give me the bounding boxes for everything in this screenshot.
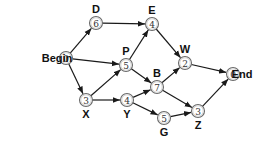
- edge-p-to-e: [130, 30, 149, 60]
- node-value: 2: [182, 59, 188, 69]
- network-diagram: 0Begin6D4E5P2W0End3X4Y7B5G3Z: [0, 0, 269, 145]
- node-value: 3: [83, 96, 89, 106]
- node-label: B: [153, 67, 161, 79]
- node-x: 3X: [80, 94, 93, 121]
- edge-b-to-z: [163, 90, 192, 107]
- edge-g-to-z: [170, 112, 191, 116]
- nodes-layer: 0Begin6D4E5P2W0End3X4Y7B5G3Z: [42, 3, 253, 138]
- node-b: 7B: [151, 67, 164, 94]
- node-g: 5G: [158, 112, 171, 139]
- node-begin: 0Begin: [42, 52, 73, 65]
- node-w: 2W: [179, 43, 192, 70]
- node-label: G: [160, 126, 169, 138]
- node-value: 4: [124, 96, 130, 106]
- edge-w-to-end: [191, 65, 226, 73]
- edge-p-to-b: [131, 69, 151, 83]
- node-value: 6: [93, 19, 99, 29]
- node-label: W: [180, 43, 191, 55]
- node-label: End: [232, 68, 253, 80]
- node-z: 3Z: [192, 105, 205, 132]
- node-d: 6D: [90, 3, 103, 30]
- edge-e-to-w: [156, 29, 180, 58]
- node-e: 4E: [146, 4, 159, 31]
- edge-y-to-b: [133, 90, 151, 98]
- node-label: E: [148, 4, 155, 16]
- edge-y-to-g: [133, 103, 158, 115]
- edge-z-to-end: [203, 79, 229, 106]
- node-label: D: [92, 3, 100, 15]
- edge-begin-to-x: [69, 64, 83, 94]
- node-label: Begin: [42, 52, 73, 64]
- node-label: P: [122, 45, 129, 57]
- node-value: 4: [149, 20, 155, 30]
- node-label: Z: [195, 119, 202, 131]
- node-value: 5: [123, 61, 129, 71]
- node-end: 0End: [227, 68, 253, 81]
- edges-layer: [69, 23, 228, 117]
- edge-x-to-p: [91, 70, 121, 96]
- node-value: 7: [154, 83, 160, 93]
- node-value: 3: [195, 107, 201, 117]
- edge-begin-to-d: [70, 28, 91, 53]
- edge-d-to-e: [103, 23, 146, 24]
- node-label: Y: [123, 108, 131, 120]
- edge-begin-to-p: [73, 59, 120, 64]
- node-value: 5: [161, 114, 167, 124]
- node-y: 4Y: [121, 94, 134, 121]
- node-label: X: [82, 108, 90, 120]
- edge-b-to-w: [162, 68, 180, 83]
